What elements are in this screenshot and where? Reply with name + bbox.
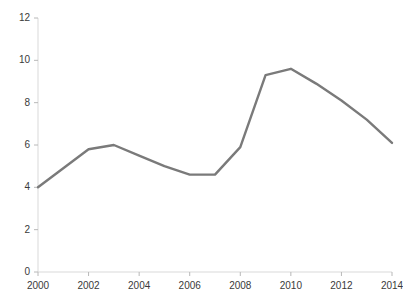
- x-axis-tick-label: 2004: [128, 281, 150, 291]
- x-axis-tick-label: 2002: [77, 281, 99, 291]
- y-axis-tick-label: 8: [2, 98, 30, 108]
- y-axis-tick-label: 4: [2, 182, 30, 192]
- x-axis-tick-label: 2008: [229, 281, 251, 291]
- y-axis-tick-label: 10: [2, 55, 30, 65]
- x-axis-tick-label: 2014: [381, 281, 403, 291]
- y-axis-tick-label: 12: [2, 13, 30, 23]
- caption-sliver: [10, 296, 390, 304]
- x-axis-tick-label: 2012: [330, 281, 352, 291]
- data-series-line: [38, 69, 392, 188]
- y-axis-tick-label: 0: [2, 267, 30, 277]
- x-axis-tick-label: 2006: [179, 281, 201, 291]
- axis-group: [38, 18, 392, 272]
- y-axis-tick-label: 2: [2, 225, 30, 235]
- y-axis-ticks: [34, 18, 38, 272]
- x-axis-tick-label: 2000: [27, 281, 49, 291]
- x-axis-tick-label: 2010: [280, 281, 302, 291]
- y-axis-tick-label: 6: [2, 140, 30, 150]
- x-axis-ticks: [38, 272, 392, 276]
